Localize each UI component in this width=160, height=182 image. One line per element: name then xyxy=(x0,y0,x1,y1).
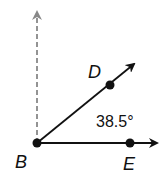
label-e: E xyxy=(123,154,136,174)
point-b xyxy=(33,139,42,148)
angle-measure: 38.5° xyxy=(96,113,134,130)
label-d: D xyxy=(88,62,101,82)
point-d xyxy=(106,81,115,90)
point-e xyxy=(126,139,135,148)
ray-bd xyxy=(37,64,134,143)
label-b: B xyxy=(15,152,27,172)
angle-diagram: D B E 38.5° xyxy=(0,0,160,182)
